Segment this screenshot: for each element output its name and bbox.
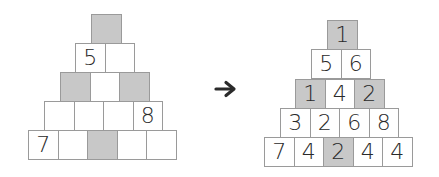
solution-cell: 2 xyxy=(310,108,341,138)
puzzle-cell xyxy=(58,130,89,160)
puzzle-cell xyxy=(44,101,75,131)
solution-row-1: 1 xyxy=(327,20,358,50)
puzzle-cell xyxy=(119,72,150,102)
solution-cell: 2 xyxy=(323,137,354,167)
puzzle-row-3 xyxy=(60,72,150,102)
puzzle-cell xyxy=(117,130,148,160)
solution-cell: 7 xyxy=(264,137,295,167)
puzzle-cell xyxy=(103,101,134,131)
solution-cell: 6 xyxy=(341,49,372,79)
puzzle-cell xyxy=(90,72,121,102)
solution-cell: 4 xyxy=(382,137,413,167)
puzzle-cell: 7 xyxy=(28,130,59,160)
puzzle-cell xyxy=(74,101,105,131)
puzzle-cell: 5 xyxy=(75,43,106,73)
puzzle-row-5: 7 xyxy=(28,130,177,160)
solution-cell: 1 xyxy=(295,79,326,109)
solution-row-3: 1 4 2 xyxy=(295,79,385,109)
puzzle-row-2: 5 xyxy=(75,43,135,73)
solution-cell: 1 xyxy=(327,20,358,50)
puzzle-row-1 xyxy=(91,14,122,44)
solution-row-2: 5 6 xyxy=(311,49,371,79)
solution-cell: 4 xyxy=(325,79,356,109)
solution-cell: 2 xyxy=(354,79,385,109)
solution-cell: 3 xyxy=(280,108,311,138)
puzzle-cell xyxy=(105,43,136,73)
solution-cell: 4 xyxy=(294,137,325,167)
solution-cell: 5 xyxy=(311,49,342,79)
right-arrow-icon xyxy=(214,80,238,98)
solution-cell: 4 xyxy=(353,137,384,167)
puzzle-cell: 8 xyxy=(133,101,164,131)
solution-row-4: 3 2 6 8 xyxy=(280,108,399,138)
puzzle-cell xyxy=(91,14,122,44)
puzzle-cell xyxy=(146,130,177,160)
puzzle-cell xyxy=(87,130,118,160)
solution-cell: 8 xyxy=(369,108,400,138)
solution-cell: 6 xyxy=(339,108,370,138)
solution-row-5: 7 4 2 4 4 xyxy=(264,137,413,167)
puzzle-row-4: 8 xyxy=(44,101,163,131)
puzzle-cell xyxy=(60,72,91,102)
